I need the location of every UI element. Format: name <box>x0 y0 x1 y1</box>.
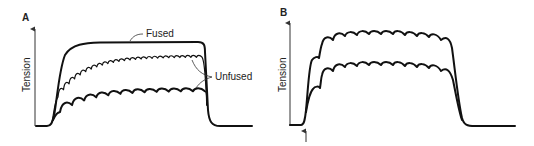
fused-annotation: Fused <box>146 28 174 39</box>
unfused-annotation: Unfused <box>215 71 252 82</box>
panel-a: A Tension Fused Unfused <box>21 12 252 126</box>
trace-fused <box>36 42 252 126</box>
panel-b: B Tension <box>277 7 515 142</box>
figure: A Tension Fused Unfused B Tension <box>0 0 534 146</box>
trace-b-lower <box>306 62 462 120</box>
panel-b-y-label: Tension <box>277 58 288 92</box>
unfused-leader-lower <box>196 77 212 88</box>
panel-b-label: B <box>280 7 287 18</box>
trace-unfused-lower <box>53 88 207 120</box>
unfused-leader-upper <box>192 60 212 77</box>
panel-a-label: A <box>22 12 29 23</box>
fused-leader <box>130 34 143 41</box>
trace-b-upper <box>290 31 515 126</box>
panel-a-y-label: Tension <box>21 58 32 92</box>
